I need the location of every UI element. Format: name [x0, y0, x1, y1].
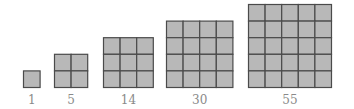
grid-cell: [200, 54, 217, 71]
grid-cell: [298, 38, 315, 55]
square-grid-2x2: [55, 54, 88, 87]
grid-cell: [265, 21, 282, 38]
grid-cell: [167, 54, 184, 71]
grid-label-5: 55: [282, 93, 297, 107]
grid-cell: [265, 38, 282, 55]
grid-cell: [104, 54, 121, 71]
grid-cell: [55, 54, 72, 71]
grid-cell: [55, 71, 72, 88]
grid-cell: [216, 71, 233, 88]
grid-cell: [315, 54, 332, 71]
grid-cell: [167, 21, 184, 38]
grid-cell: [315, 38, 332, 55]
grid-cell: [249, 21, 266, 38]
grid-cell: [137, 71, 154, 88]
grid-label-2: 5: [67, 93, 75, 107]
grid-cell: [71, 54, 88, 71]
grid-cell: [249, 54, 266, 71]
grid-cell: [216, 21, 233, 38]
grid-cell: [104, 71, 121, 88]
grid-cell: [265, 5, 282, 22]
grid-cell: [282, 38, 299, 55]
grid-label-3: 14: [121, 93, 137, 107]
grid-cell: [315, 71, 332, 88]
grid-cell: [216, 38, 233, 55]
grid-cell: [137, 54, 154, 71]
grid-cell: [104, 38, 121, 55]
grid-cell: [216, 54, 233, 71]
grid-cell: [200, 38, 217, 55]
square-grid-1x1: [24, 71, 41, 88]
grid-cell: [183, 38, 200, 55]
grid-cell: [183, 54, 200, 71]
grid-cell: [249, 38, 266, 55]
grid-cell: [183, 21, 200, 38]
grid-cell: [167, 38, 184, 55]
grid-cell: [298, 54, 315, 71]
grid-label-1: 1: [28, 93, 36, 107]
grid-cell: [167, 71, 184, 88]
grid-cell: [298, 71, 315, 88]
grid-cell: [200, 21, 217, 38]
grid-cell: [120, 71, 137, 88]
grid-cell: [183, 71, 200, 88]
grid-cell: [120, 54, 137, 71]
grids-group: [24, 5, 332, 88]
labels-group: 1 5 14 30 55: [28, 93, 298, 107]
grid-cell: [71, 71, 88, 88]
grid-cell: [249, 5, 266, 22]
grid-cell: [265, 54, 282, 71]
grid-label-4: 30: [192, 93, 207, 107]
grid-cell: [282, 54, 299, 71]
grid-cell: [282, 21, 299, 38]
square-grid-5x5: [249, 5, 332, 88]
grid-cell: [200, 71, 217, 88]
grid-cell: [282, 5, 299, 22]
grid-cell: [265, 71, 282, 88]
grid-cell: [120, 38, 137, 55]
grid-cell: [249, 71, 266, 88]
square-pyramidal-numbers-figure: 1 5 14 30 55: [0, 0, 354, 109]
grid-cell: [298, 5, 315, 22]
square-grid-3x3: [104, 38, 154, 88]
grid-cell: [315, 21, 332, 38]
grid-cell: [298, 21, 315, 38]
square-grid-4x4: [167, 21, 233, 87]
grid-cell: [24, 71, 41, 88]
grid-cell: [315, 5, 332, 22]
grid-cell: [282, 71, 299, 88]
grid-cell: [137, 38, 154, 55]
